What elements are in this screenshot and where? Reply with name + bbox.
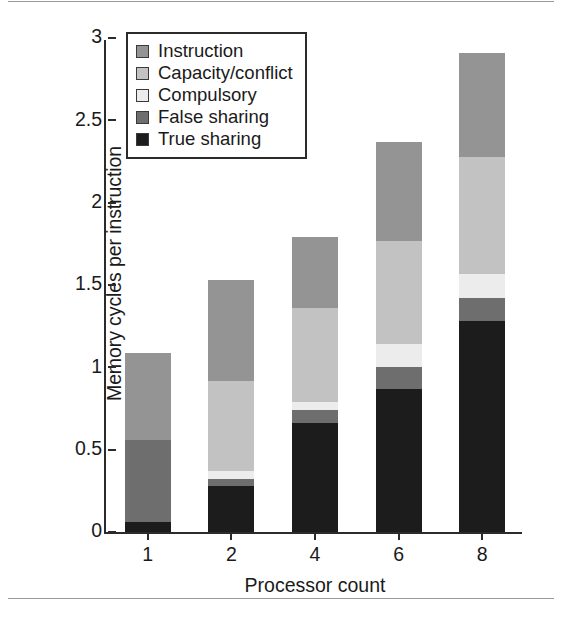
bar-segment [292,402,338,410]
bar-segment [125,522,171,532]
bar-segment [459,157,505,274]
bar-stack [376,142,422,532]
bar-segment [125,440,171,522]
bar-segment [376,241,422,345]
bar-stack [459,53,505,532]
legend-item: Compulsory [136,84,293,106]
bar-segment [208,486,254,532]
bar-segment [208,471,254,479]
bar-segment [376,142,422,241]
legend-swatch [136,67,149,80]
bar-segment [292,308,338,402]
legend-item-label: Instruction [158,41,243,60]
bar-segment [208,381,254,472]
legend-item: Capacity/conflict [136,62,293,84]
x-axis-tick-label: 8 [452,543,512,566]
legend-item: True sharing [136,128,293,150]
legend-item: False sharing [136,106,293,128]
x-axis-tick-mark [230,532,232,540]
y-axis-tick-mark [108,37,116,39]
bar-segment [292,237,338,308]
bar-segment [376,389,422,532]
bar-segment [459,321,505,532]
legend-item-label: False sharing [158,107,269,126]
x-axis-tick-mark [481,532,483,540]
bar-segment [459,274,505,299]
x-axis-tick-label: 1 [118,543,178,566]
page-rule-top [8,1,554,2]
x-axis-tick-mark [398,532,400,540]
bar-stack [292,237,338,532]
legend-swatch [136,89,149,102]
legend-item-label: True sharing [158,129,261,148]
bar-segment [125,353,171,440]
x-axis-tick-mark [314,532,316,540]
bar-segment [459,53,505,157]
bar-segment [208,479,254,486]
figure-stacked-bar-chart: Memory cycles per instruction 00.511.522… [0,0,562,618]
bar-segment [376,367,422,388]
y-axis-tick-label: 1.5 [75,274,108,294]
bar-stack [125,353,171,532]
legend-swatch [136,45,149,58]
x-axis-tick-label: 6 [369,543,429,566]
legend-item-label: Capacity/conflict [158,63,293,82]
legend-swatch [136,111,149,124]
bar-stack [208,280,254,532]
chart-legend: InstructionCapacity/conflictCompulsoryFa… [126,32,307,159]
y-axis-tick-label: 2.5 [75,110,108,130]
bar-segment [292,410,338,423]
bar-segment [208,280,254,380]
x-axis-tick-mark [147,532,149,540]
bar-segment [376,344,422,367]
legend-item: Instruction [136,40,293,62]
legend-item-label: Compulsory [158,85,257,104]
x-axis-title: Processor count [106,574,524,597]
x-axis-tick-label: 4 [285,543,345,566]
page-rule-bottom [8,598,554,599]
legend-swatch [136,133,149,146]
bar-segment [459,298,505,321]
y-axis-tick-label: 0.5 [75,439,108,459]
x-axis-tick-label: 2 [201,543,261,566]
bar-segment [292,423,338,532]
